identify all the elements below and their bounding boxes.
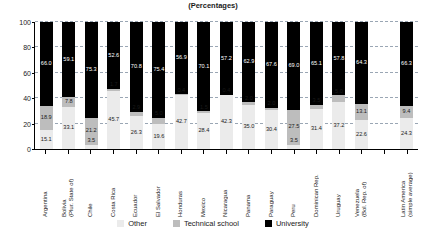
bar-segment-other[interactable]: 3.5 [85, 145, 98, 149]
bar-segment-university[interactable]: 62.9 [242, 22, 255, 102]
bar-segment-university[interactable]: 69.0 [287, 22, 300, 110]
bar-segment-other[interactable]: 45.7 [107, 91, 120, 149]
bar-slot[interactable]: 62.92.035.0 [238, 22, 261, 149]
bar-group: 66.018.915.159.17.833.175.321.23.552.61.… [35, 22, 418, 149]
bar-segment-university[interactable]: 57.2 [220, 22, 233, 95]
bar-slot[interactable]: 66.018.915.1 [35, 22, 58, 149]
stacked-bar[interactable]: 57.20.442.3 [220, 22, 233, 149]
stacked-bar[interactable]: 59.17.833.1 [62, 22, 75, 149]
x-axis-category-label: Peru [290, 155, 297, 217]
bar-slot[interactable]: 57.20.442.3 [215, 22, 238, 149]
bar-segment-value: 35.0 [243, 124, 254, 130]
bar-slot[interactable]: 75.45.019.6 [148, 22, 171, 149]
bar-segment-university[interactable]: 66.3 [400, 22, 413, 106]
stacked-bar[interactable]: 56.90.442.7 [175, 22, 188, 149]
bar-segment-university[interactable]: 75.3 [85, 22, 98, 118]
bar-segment-value: 59.1 [63, 57, 74, 63]
bar-slot[interactable]: 57.85.037.2 [328, 22, 351, 149]
bar-segment-value: 31.4 [311, 126, 322, 132]
bar-segment-technical[interactable]: 7.8 [62, 97, 75, 107]
bar-segment-value: 57.2 [221, 56, 232, 62]
stacked-bar[interactable]: 62.92.035.0 [242, 22, 255, 149]
stacked-bar[interactable]: 52.61.745.7 [107, 22, 120, 149]
bar-segment-value: 57.8 [334, 56, 345, 62]
bar-slot[interactable]: 56.90.442.7 [170, 22, 193, 149]
bar-segment-value: 15.1 [41, 137, 52, 143]
stacked-bar[interactable]: 66.39.424.3 [400, 22, 413, 149]
legend-item-university[interactable]: University [265, 219, 309, 228]
bar-segment-other[interactable]: 28.4 [197, 113, 210, 149]
bar-slot[interactable]: 69.027.53.5 [283, 22, 306, 149]
bar-segment-value: 3.5 [313, 98, 321, 104]
bar-segment-other[interactable]: 15.1 [40, 130, 53, 149]
chart-subtitle: (Percentages) [0, 1, 426, 10]
x-axis-tick [79, 150, 102, 154]
bar-segment-value: 2.0 [245, 96, 253, 102]
x-axis-tick [147, 150, 170, 154]
bar-segment-other[interactable]: 3.5 [287, 145, 300, 149]
stacked-bar[interactable]: 57.85.037.2 [332, 22, 345, 149]
x-axis-tick-mark [407, 150, 408, 154]
bar-segment-other[interactable]: 42.3 [220, 95, 233, 149]
x-axis-tick [373, 150, 396, 154]
bar-segment-other[interactable]: 31.4 [310, 109, 323, 149]
stacked-bar[interactable]: 75.45.019.6 [152, 22, 165, 149]
stacked-bar[interactable]: 64.313.122.6 [355, 22, 368, 149]
stacked-bar[interactable]: 65.13.531.4 [310, 22, 323, 149]
bar-segment-other[interactable]: 30.4 [265, 110, 278, 149]
bar-segment-university[interactable]: 70.1 [197, 22, 210, 111]
bar-slot[interactable]: 65.13.531.4 [305, 22, 328, 149]
bar-segment-other[interactable]: 24.3 [400, 118, 413, 149]
bar-slot[interactable]: 70.11.528.4 [193, 22, 216, 149]
bar-slot[interactable]: 70.82.926.3 [125, 22, 148, 149]
bar-segment-university[interactable]: 67.6 [265, 22, 278, 108]
bar-slot[interactable] [373, 22, 396, 149]
stacked-bar[interactable]: 69.027.53.5 [287, 22, 300, 149]
bar-segment-university[interactable]: 57.8 [332, 22, 345, 95]
x-axis-tick [395, 150, 418, 154]
bar-segment-value: 66.0 [41, 61, 52, 67]
bar-segment-university[interactable]: 59.1 [62, 22, 75, 97]
x-axis-label-slot: Honduras [169, 155, 192, 217]
bar-slot[interactable]: 52.61.745.7 [103, 22, 126, 149]
bar-segment-other[interactable]: 35.0 [242, 105, 255, 149]
x-axis-category-label: Latin America (simple average) [400, 155, 414, 217]
x-axis-category-label: Bolivia (Plur. State of) [61, 155, 75, 217]
bar-segment-other[interactable]: 33.1 [62, 107, 75, 149]
bar-segment-other[interactable]: 22.6 [355, 120, 368, 149]
bar-segment-other[interactable]: 26.3 [130, 116, 143, 149]
bar-slot[interactable]: 67.62.030.4 [260, 22, 283, 149]
bar-segment-university[interactable]: 66.0 [40, 22, 53, 106]
bar-slot[interactable]: 59.17.833.1 [58, 22, 81, 149]
bar-segment-university[interactable]: 70.8 [130, 22, 143, 112]
bar-segment-technical[interactable]: 13.1 [355, 104, 368, 121]
bar-segment-value: 67.6 [266, 62, 277, 68]
bar-segment-other[interactable]: 37.2 [332, 102, 345, 149]
bar-slot[interactable]: 64.313.122.6 [350, 22, 373, 149]
stacked-bar[interactable]: 67.62.030.4 [265, 22, 278, 149]
bar-segment-university[interactable]: 64.3 [355, 22, 368, 104]
x-axis-tick-mark [136, 150, 137, 154]
bar-segment-technical[interactable]: 18.9 [40, 106, 53, 130]
x-axis-label-slot: Mexico [192, 155, 215, 217]
bar-segment-university[interactable]: 56.9 [175, 22, 188, 94]
bar-segment-value: 1.7 [110, 82, 118, 88]
bar-segment-value: 27.5 [288, 124, 299, 130]
stacked-bar[interactable]: 66.018.915.1 [40, 22, 53, 149]
x-axis-label-slot: Peru [282, 155, 305, 217]
legend-item-technical[interactable]: Technical school [173, 219, 239, 228]
stacked-bar[interactable]: 70.82.926.3 [130, 22, 143, 149]
bar-segment-university[interactable]: 75.4 [152, 22, 165, 118]
bar-segment-value: 75.3 [86, 67, 97, 73]
x-axis-label-slot: Bolivia (Plur. State of) [57, 155, 80, 217]
bar-segment-other[interactable]: 42.7 [175, 95, 188, 149]
bar-segment-university[interactable]: 52.6 [107, 22, 120, 89]
bar-segment-university[interactable]: 65.1 [310, 22, 323, 105]
bar-slot[interactable]: 75.321.23.5 [80, 22, 103, 149]
stacked-bar[interactable]: 70.11.528.4 [197, 22, 210, 149]
legend-item-other[interactable]: Other [117, 219, 147, 228]
stacked-bar[interactable]: 75.321.23.5 [85, 22, 98, 149]
bar-segment-technical[interactable]: 9.4 [400, 106, 413, 118]
bar-segment-other[interactable]: 19.6 [152, 124, 165, 149]
bar-slot[interactable]: 66.39.424.3 [395, 22, 418, 149]
